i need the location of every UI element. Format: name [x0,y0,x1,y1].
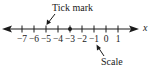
tick-label: −2 [77,34,87,44]
tick-label: −3 [65,34,75,44]
scale-label: Scale [101,57,123,67]
tick-label: −4 [53,34,63,44]
tick-mark-label: Tick mark [52,3,93,13]
tick-label: 1 [116,34,121,44]
tick-label: −1 [89,34,99,44]
tick-label: −6 [29,34,39,44]
axis-variable-label: x [143,23,147,33]
scale-pointer-icon [97,45,105,57]
tick-mark-pointer-icon [47,14,56,25]
tick-label: 0 [104,34,109,44]
tick-label: −5 [41,34,51,44]
point-marker [68,27,72,31]
tick-label: −7 [17,34,27,44]
